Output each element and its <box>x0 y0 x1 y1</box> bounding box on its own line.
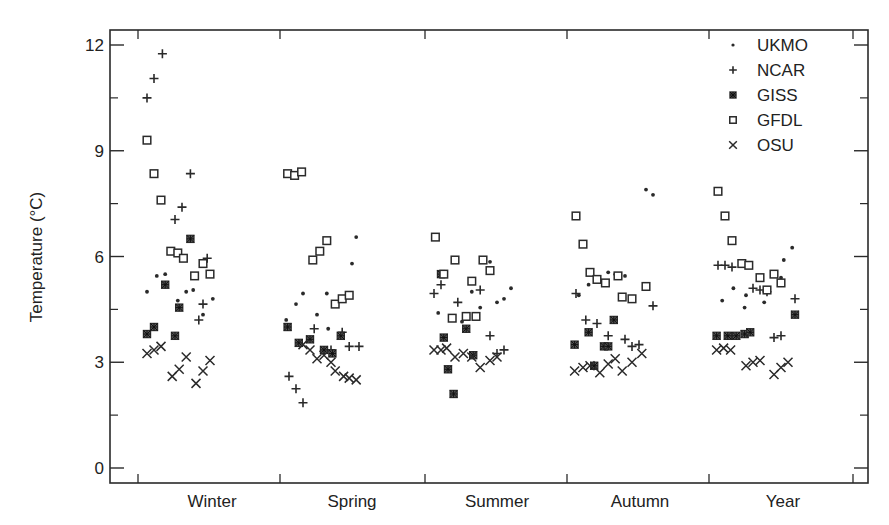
asterisk-box-marker <box>450 390 457 397</box>
plus-marker <box>649 301 658 310</box>
series-osu <box>143 340 793 388</box>
plus-marker <box>749 284 758 293</box>
dot-marker <box>488 260 492 264</box>
plus-marker <box>770 333 779 342</box>
x-category-label: Winter <box>187 492 236 511</box>
x-category-label: Summer <box>465 492 530 511</box>
square-marker <box>479 256 487 264</box>
legend-item-ukmo: UKMO <box>731 36 808 55</box>
x-marker <box>182 352 191 361</box>
asterisk-box-marker <box>176 304 183 311</box>
asterisk-box-marker <box>605 343 612 350</box>
legend-label: UKMO <box>757 36 808 55</box>
x-marker <box>756 356 765 365</box>
legend-item-ncar: NCAR <box>729 61 805 80</box>
dot-marker <box>644 188 648 192</box>
plot-border <box>110 30 868 483</box>
dot-marker <box>155 274 159 278</box>
square-marker <box>642 283 650 291</box>
square-marker <box>206 270 214 278</box>
x-marker <box>451 352 460 361</box>
plus-marker <box>285 372 294 381</box>
dot-marker <box>350 262 354 266</box>
plus-marker <box>593 319 602 328</box>
dot-marker <box>744 293 748 297</box>
dot-marker <box>502 297 506 301</box>
legend-item-giss: GISS <box>730 86 798 105</box>
y-tick-label: 3 <box>95 353 104 372</box>
dot-marker <box>354 235 358 239</box>
square-marker <box>309 256 317 264</box>
dot-marker <box>478 306 482 310</box>
x-marker <box>637 349 646 358</box>
dot-marker <box>294 302 298 306</box>
asterisk-box-marker <box>791 311 798 318</box>
plus-marker <box>171 215 180 224</box>
legend-label: OSU <box>757 136 794 155</box>
dot-marker <box>762 300 766 304</box>
dot-marker <box>731 43 734 46</box>
square-marker <box>468 277 476 285</box>
x-marker <box>611 354 620 363</box>
dot-marker <box>325 292 329 296</box>
asterisk-box-marker <box>724 332 731 339</box>
plus-marker <box>355 342 364 351</box>
square-marker <box>432 233 440 241</box>
x-category-label: Spring <box>327 492 376 511</box>
legend-item-osu: OSU <box>729 136 794 155</box>
square-marker <box>472 313 480 321</box>
y-tick-label: 0 <box>95 459 104 478</box>
dot-marker <box>315 313 319 317</box>
y-tick-label: 6 <box>95 248 104 267</box>
plus-marker <box>476 285 485 294</box>
x-marker <box>206 356 215 365</box>
dot-marker <box>326 327 330 331</box>
x-marker <box>712 345 721 354</box>
x-marker <box>192 379 201 388</box>
plus-marker <box>604 331 613 340</box>
asterisk-box-marker <box>306 336 313 343</box>
y-tick-label: 9 <box>95 142 104 161</box>
plus-marker <box>150 74 159 83</box>
plus-marker <box>453 298 462 307</box>
dot-marker <box>790 246 794 250</box>
series-gfdl <box>143 136 785 322</box>
plus-marker <box>194 315 203 324</box>
asterisk-box-marker <box>150 323 157 330</box>
dot-marker <box>732 286 736 290</box>
plus-marker <box>158 49 167 58</box>
x-marker <box>579 363 588 372</box>
plus-marker <box>628 342 637 351</box>
y-axis: 036912 <box>85 36 868 478</box>
square-marker <box>593 276 601 284</box>
square-marker <box>628 295 636 303</box>
asterisk-box-marker <box>171 332 178 339</box>
square-marker <box>721 212 729 220</box>
series-giss <box>143 235 798 397</box>
plus-marker <box>486 331 495 340</box>
plus-marker <box>581 315 590 324</box>
dot-marker <box>301 292 305 296</box>
plus-marker <box>345 342 354 351</box>
square-marker <box>770 270 778 278</box>
x-marker <box>628 358 637 367</box>
square-marker <box>448 314 456 322</box>
asterisk-box-marker <box>162 281 169 288</box>
dot-marker <box>782 258 786 262</box>
square-marker <box>730 117 736 123</box>
square-marker <box>451 256 459 264</box>
square-marker <box>745 262 753 270</box>
plus-marker <box>621 335 630 344</box>
x-marker <box>331 367 340 376</box>
x-marker <box>618 367 627 376</box>
dot-marker <box>201 313 205 317</box>
plus-marker <box>729 66 737 74</box>
square-marker <box>440 270 448 278</box>
legend-item-gfdl: GFDL <box>730 111 803 130</box>
plus-marker <box>143 93 152 102</box>
square-marker <box>486 267 494 275</box>
plus-marker <box>777 331 786 340</box>
x-marker <box>175 365 184 374</box>
square-marker <box>345 291 353 299</box>
dot-marker <box>191 288 195 292</box>
